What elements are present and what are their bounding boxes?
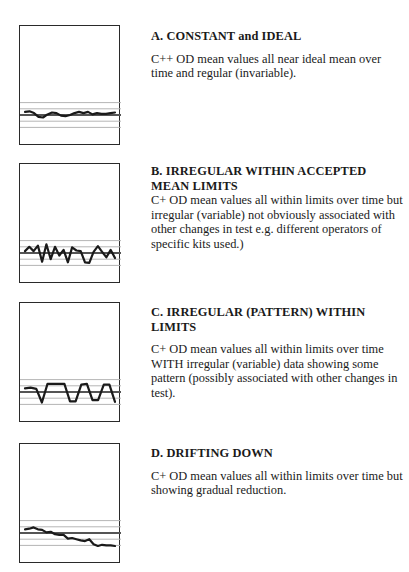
- od-mean-series-line: [25, 384, 115, 403]
- chart-d-plot: [19, 443, 120, 563]
- panel-b-text: B. IRREGULAR WITHIN ACCEPTED MEAN LIMITS…: [151, 164, 403, 251]
- chart-a-plot: [19, 25, 120, 145]
- panel-a-text: A. CONSTANT and IDEAL C++ OD mean values…: [151, 29, 403, 81]
- panel-c-description: C+ OD mean values all within limits over…: [151, 342, 403, 400]
- od-mean-series-line: [25, 527, 115, 546]
- panel-c-heading: C. IRREGULAR (PATTERN) WITHIN LIMITS: [151, 305, 403, 334]
- panel-b-heading: B. IRREGULAR WITHIN ACCEPTED MEAN LIMITS: [151, 164, 403, 193]
- chart-c-svg: [20, 303, 121, 423]
- panel-b-description: C+ OD mean values all within limits over…: [151, 193, 403, 251]
- panel-d-heading: D. DRIFTING DOWN: [151, 446, 403, 461]
- chart-b-plot: [19, 163, 120, 283]
- panel-d-text: D. DRIFTING DOWN C+ OD mean values all w…: [151, 446, 403, 498]
- chart-d-svg: [20, 444, 121, 564]
- panel-a-heading: A. CONSTANT and IDEAL: [151, 29, 403, 44]
- panel-d-description: C+ OD mean values all within limits over…: [151, 469, 403, 498]
- chart-a-svg: [20, 26, 121, 146]
- panel-c-text: C. IRREGULAR (PATTERN) WITHIN LIMITS C+ …: [151, 305, 403, 400]
- panel-a-description: C++ OD mean values all near ideal mean o…: [151, 52, 403, 81]
- chart-b-svg: [20, 164, 121, 285]
- chart-c-plot: [19, 302, 120, 422]
